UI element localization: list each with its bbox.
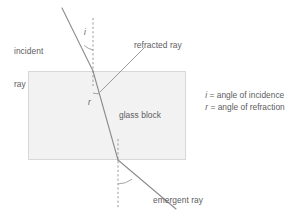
refraction-diagram: incident ray refracted ray glass block e… [0, 0, 298, 222]
incident-ray-line [62, 8, 93, 71]
legend-equals-r: = [208, 102, 218, 112]
angle-i-arc [84, 46, 93, 51]
incident-ray-label: incident ray [14, 24, 43, 112]
angle-r-label: r [88, 98, 91, 107]
glass-block-label: glass block [119, 110, 161, 121]
emergent-ray-label: emergent ray [153, 195, 203, 206]
legend-text-r: angle of refraction [218, 102, 285, 112]
refracted-ray-label: refracted ray [134, 40, 182, 51]
angle-exit-arc [118, 179, 132, 184]
incident-ray-label-line2: ray [14, 79, 43, 90]
incident-ray-label-line1: incident [14, 46, 43, 57]
angle-i-label: i [84, 28, 86, 37]
legend-item-refraction: r = angle of refraction [196, 91, 285, 124]
